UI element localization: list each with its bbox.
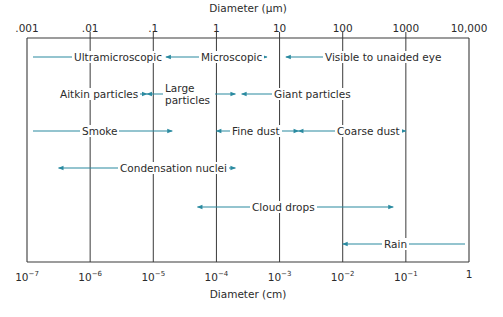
top-tick-label: 1000 <box>392 22 419 34</box>
range-label: Ultramicroscopic <box>72 51 164 63</box>
range-label: Aitkin particles <box>58 88 140 100</box>
range-label: Large particles <box>163 82 215 106</box>
bottom-axis-title: Diameter (cm) <box>210 288 287 300</box>
top-tick-label: 10,000 <box>451 22 488 34</box>
range-label: Smoke <box>80 125 119 137</box>
range-label: Cloud drops <box>250 201 317 213</box>
particle-size-diagram <box>0 0 503 317</box>
range-label: Visible to unaided eye <box>323 51 443 63</box>
bottom-tick-label: 10−7 <box>15 268 39 283</box>
range-label: Giant particles <box>272 88 353 100</box>
bottom-tick-label: 10−4 <box>205 268 229 283</box>
range-label: Coarse dust <box>335 125 402 137</box>
top-tick-label: .001 <box>15 22 38 34</box>
bottom-tick-label: 10−2 <box>331 268 355 283</box>
bottom-tick-label: 10−3 <box>268 268 292 283</box>
range-arrows <box>33 57 465 244</box>
gridlines <box>27 32 469 262</box>
bottom-tick-label: 10−5 <box>141 268 165 283</box>
top-tick-label: 100 <box>333 22 353 34</box>
top-tick-label: 10 <box>273 22 286 34</box>
top-tick-label: .1 <box>148 22 158 34</box>
bottom-tick-label: 10−6 <box>78 268 102 283</box>
bottom-tick-label: 1 <box>466 268 473 280</box>
range-label: Rain <box>382 238 409 250</box>
range-label: Microscopic <box>199 51 264 63</box>
top-tick-label: .01 <box>82 22 99 34</box>
range-label: Fine dust <box>230 125 282 137</box>
range-label: Condensation nuclei <box>118 162 229 174</box>
top-axis-title: Diameter (μm) <box>209 2 286 14</box>
top-tick-label: 1 <box>213 22 220 34</box>
bottom-tick-label: 10−1 <box>394 268 418 283</box>
